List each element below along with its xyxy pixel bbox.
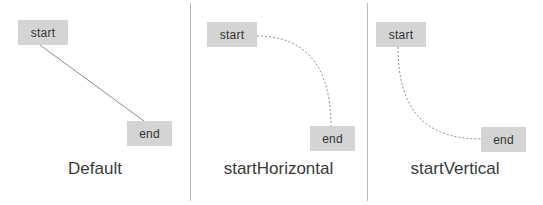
node-end-start-vertical[interactable]: end bbox=[481, 127, 526, 152]
node-start-start-vertical[interactable]: start bbox=[376, 22, 426, 47]
node-start-label: start bbox=[220, 29, 244, 41]
caption-default: Default bbox=[0, 160, 190, 177]
node-end-default[interactable]: end bbox=[127, 121, 172, 146]
node-start-label: start bbox=[389, 29, 413, 41]
diagram-figure: start end Default start end startHorizon… bbox=[0, 0, 543, 205]
node-end-label: end bbox=[493, 134, 514, 146]
edge-start-vertical bbox=[398, 47, 481, 139]
panel-start-horizontal: start end startHorizontal bbox=[190, 0, 367, 205]
panel-default: start end Default bbox=[0, 0, 190, 205]
edge-start-horizontal bbox=[257, 36, 331, 126]
node-end-label: end bbox=[139, 128, 160, 140]
node-start-start-horizontal[interactable]: start bbox=[207, 22, 257, 47]
panel-start-vertical: start end startVertical bbox=[367, 0, 543, 205]
node-end-start-horizontal[interactable]: end bbox=[310, 126, 355, 151]
edge-default bbox=[40, 45, 148, 124]
caption-start-vertical: startVertical bbox=[367, 160, 543, 177]
node-end-label: end bbox=[322, 133, 343, 145]
caption-start-horizontal: startHorizontal bbox=[190, 160, 367, 177]
node-start-default[interactable]: start bbox=[18, 20, 68, 45]
node-start-label: start bbox=[31, 27, 55, 39]
